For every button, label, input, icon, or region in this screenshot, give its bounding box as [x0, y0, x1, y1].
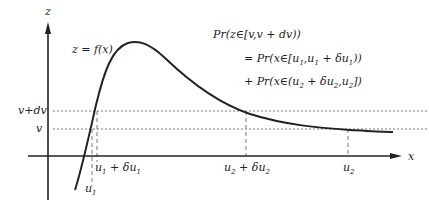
x-axis-label: x: [408, 150, 415, 163]
svg-text:u2: u2: [343, 161, 355, 176]
x-axis-arrow-icon: [390, 153, 402, 159]
u2-label: u2: [343, 161, 355, 176]
probability-equation: Pr(z∈[v,v + dv)) = Pr(x∈[u1,u1 + δu1)) +…: [212, 28, 362, 90]
v-label: v: [36, 122, 43, 135]
y-axis-arrow-icon: [45, 22, 51, 34]
u2-plus-du2-label: u2 + δu2: [224, 161, 271, 176]
u1-plus-du1-label: u1 + δu1: [95, 161, 141, 176]
svg-text:u1 + δu1: u1 + δu1: [95, 161, 141, 176]
u1-label: u1: [85, 182, 97, 197]
equation-line-1: Pr(z∈[v,v + dv)): [212, 28, 301, 41]
svg-text:u1: u1: [85, 182, 97, 197]
curve-label: z = f(x): [71, 43, 113, 56]
equation-line-2: = Pr(x∈[u1,u1 + δu1)): [244, 52, 362, 67]
v-plus-dv-label: v+dv: [18, 104, 47, 117]
y-axis-label: z: [44, 5, 51, 18]
probability-density-diagram: z x z = f(x) v+dv v u1 + δu1 u1 u2 + δu2…: [0, 0, 429, 216]
equation-line-3: + Pr(x∈(u2 + δu2,u2]): [244, 75, 362, 90]
svg-text:u2 + δu2: u2 + δu2: [224, 161, 271, 176]
